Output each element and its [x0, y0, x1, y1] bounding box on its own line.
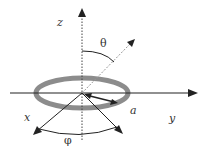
- position-vector-arrowhead: [127, 39, 135, 47]
- y-axis-arrowhead: [188, 89, 198, 97]
- z-label: z: [56, 16, 63, 29]
- phi-arc: [39, 127, 117, 135]
- theta-arc: [82, 51, 114, 62]
- loop-diagram: z θ a y x φ: [0, 0, 205, 152]
- x-label: x: [24, 111, 31, 124]
- z-axis-arrowhead: [78, 8, 86, 17]
- theta-label: θ: [100, 37, 107, 50]
- phi-label: φ: [64, 134, 72, 147]
- y-label: y: [168, 112, 176, 125]
- a-label: a: [130, 104, 137, 117]
